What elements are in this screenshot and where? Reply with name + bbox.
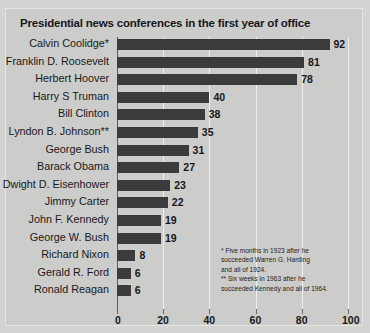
bar-value-label: 6 — [135, 266, 141, 280]
bar-category-label: Bill Clinton — [58, 106, 109, 121]
footnote-line-3: and all of 1924. — [221, 265, 347, 274]
bar-row: Bill Clinton38 — [117, 107, 348, 125]
bar — [117, 197, 168, 208]
bar-category-label: Calvin Coolidge* — [29, 36, 109, 51]
bar — [117, 109, 205, 120]
x-tick-label: 0 — [115, 314, 121, 326]
bar-category-label: Herbert Hoover — [35, 71, 109, 86]
bar-category-label: Barack Obama — [37, 159, 109, 174]
bar-value-label: 19 — [165, 231, 177, 245]
footnote-line-2: succeeded Warren G. Harding — [221, 255, 347, 264]
bar-category-label: Dwight D. Eisenhower — [3, 177, 109, 192]
bar-value-label: 22 — [172, 195, 184, 209]
bar-value-label: 31 — [193, 143, 205, 157]
bar — [117, 233, 161, 244]
chart-frame: Presidential news conferences in the fir… — [6, 9, 362, 325]
x-axis: 020406080100 — [117, 309, 348, 329]
bar-value-label: 6 — [135, 283, 141, 297]
bar-value-label: 23 — [174, 178, 186, 192]
bar — [117, 162, 179, 173]
x-tick-label: 80 — [296, 314, 308, 326]
bar-value-label: 27 — [183, 160, 195, 174]
bar-row: Herbert Hoover78 — [117, 72, 348, 90]
bar-value-label: 8 — [139, 248, 145, 262]
footnote-line-5: succeeded Kennedy and all of 1964. — [221, 284, 347, 293]
bar — [117, 268, 131, 279]
bar — [117, 74, 297, 85]
bar — [117, 180, 170, 191]
bar-category-label: Richard Nixon — [41, 247, 109, 262]
bar-category-label: Ronald Reagan — [34, 282, 109, 297]
bar-value-label: 19 — [165, 213, 177, 227]
bar-value-label: 35 — [202, 125, 214, 139]
bar — [117, 145, 189, 156]
bar-row: Barack Obama27 — [117, 160, 348, 178]
bar-value-label: 40 — [213, 90, 225, 104]
bar — [117, 127, 198, 138]
bar-row: Dwight D. Eisenhower23 — [117, 178, 348, 196]
bar-category-label: Franklin D. Roosevelt — [6, 54, 109, 69]
bar-value-label: 78 — [301, 72, 313, 86]
bar-category-label: Jimmy Carter — [45, 194, 109, 209]
footnote-line-4: ** Six weeks in 1963 after he — [221, 274, 347, 283]
bar-row: Lyndon B. Johnson**35 — [117, 125, 348, 143]
bar — [117, 285, 131, 296]
bar-category-label: George W. Bush — [30, 230, 109, 245]
bar-value-label: 92 — [334, 37, 346, 51]
x-tick-label: 20 — [157, 314, 169, 326]
bar-row: Calvin Coolidge*92 — [117, 37, 348, 55]
bar-value-label: 81 — [308, 55, 320, 69]
footnote-line-1: * Five months in 1923 after he — [221, 246, 347, 255]
bar-category-label: Lyndon B. Johnson** — [9, 124, 109, 139]
bar — [117, 39, 330, 50]
x-tick-label: 100 — [342, 314, 360, 326]
bar-value-label: 38 — [209, 107, 221, 121]
gridline-100 — [348, 37, 349, 309]
chart-title: Presidential news conferences in the fir… — [20, 17, 310, 29]
bar-row: John F. Kennedy19 — [117, 213, 348, 231]
bar-row: Jimmy Carter22 — [117, 195, 348, 213]
bar-row: Harry S Truman40 — [117, 90, 348, 108]
bar-row: George Bush31 — [117, 143, 348, 161]
x-tick-label: 40 — [203, 314, 215, 326]
bar — [117, 215, 161, 226]
bar-category-label: Gerald R. Ford — [38, 265, 109, 280]
bar-category-label: Harry S Truman — [33, 89, 109, 104]
bar — [117, 250, 135, 261]
bar — [117, 92, 209, 103]
x-tick-label: 60 — [250, 314, 262, 326]
bar-row: Franklin D. Roosevelt81 — [117, 55, 348, 73]
bar-category-label: George Bush — [45, 142, 109, 157]
bar-category-label: John F. Kennedy — [29, 212, 109, 227]
bar — [117, 57, 304, 68]
chart-page: Presidential news conferences in the fir… — [0, 0, 370, 333]
footnote: * Five months in 1923 after he succeeded… — [221, 246, 347, 293]
